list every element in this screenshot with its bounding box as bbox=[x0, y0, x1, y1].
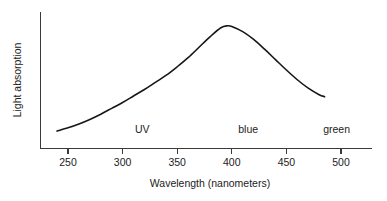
x-axis-tick-labels: 250300350400450500 bbox=[59, 156, 350, 168]
x-axis-tick-label: 300 bbox=[114, 156, 132, 168]
x-axis-tick-label: 450 bbox=[278, 156, 296, 168]
absorption-curve bbox=[57, 26, 325, 131]
plot-annotation-blue: blue bbox=[238, 123, 258, 135]
absorption-spectrum-chart: 250300350400450500 UVbluegreen Wavelengt… bbox=[0, 0, 387, 201]
x-axis-tick-label: 250 bbox=[59, 156, 77, 168]
plot-annotation-uv: UV bbox=[135, 123, 150, 135]
x-axis-ticks bbox=[68, 149, 341, 155]
x-axis-tick-label: 500 bbox=[332, 156, 350, 168]
x-axis-tick-label: 400 bbox=[223, 156, 241, 168]
x-axis-tick-label: 350 bbox=[168, 156, 186, 168]
plot-annotations: UVbluegreen bbox=[135, 123, 350, 135]
x-axis-title: Wavelength (nanometers) bbox=[150, 177, 270, 189]
plot-annotation-green: green bbox=[323, 123, 350, 135]
y-axis-title: Light absorption bbox=[11, 42, 23, 117]
chart-figure: 250300350400450500 UVbluegreen Wavelengt… bbox=[0, 0, 387, 201]
